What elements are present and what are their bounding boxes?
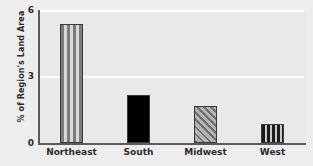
y-axis-title: % of Region's Land Area	[17, 2, 26, 132]
y-tick-label-0: 0	[0, 138, 34, 148]
x-axis-line	[38, 143, 306, 145]
bar-chart: % of Region's Land Area 6 3 0 Northeast …	[0, 0, 313, 166]
y-tick-6: 6	[0, 5, 34, 16]
y-tick-0: 0	[0, 138, 34, 149]
bar-northeast	[60, 24, 83, 143]
y-axis-line	[38, 10, 40, 144]
y-tick-label-6: 6	[0, 5, 34, 15]
x-tick-label-west: West	[233, 147, 313, 157]
bar-midwest	[194, 106, 217, 143]
plot-area	[38, 11, 306, 143]
bar-west	[261, 124, 284, 143]
bar-south	[127, 95, 150, 143]
gridline-6	[40, 10, 304, 12]
y-tick-label-3: 3	[0, 71, 34, 81]
y-tick-3: 3	[0, 71, 34, 82]
